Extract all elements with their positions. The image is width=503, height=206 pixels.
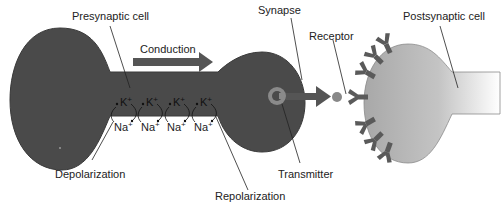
label-repolarization: Repolarization	[215, 190, 285, 202]
postsynaptic-cell	[364, 44, 500, 163]
neuron-diagram: K+ K+ K+ K+ Na+ Na+ Na+ Na+	[0, 0, 503, 206]
transmitter-molecule-icon	[332, 92, 342, 102]
label-conduction: Conduction	[140, 43, 196, 55]
label-depolarization: Depolarization	[55, 168, 125, 180]
transmitter-vesicle-icon	[268, 87, 286, 105]
label-transmitter: Transmitter	[278, 168, 334, 180]
label-synapse: Synapse	[258, 4, 301, 16]
conduction-arrow-icon	[133, 52, 213, 72]
label-presynaptic-cell: Presynaptic cell	[72, 10, 149, 22]
ion-na-1: Na+	[114, 120, 133, 133]
ion-na-2: Na+	[141, 120, 160, 133]
label-postsynaptic-cell: Postsynaptic cell	[403, 10, 485, 22]
ion-na-4: Na+	[194, 120, 213, 133]
ion-na-3: Na+	[167, 120, 186, 133]
label-receptor: Receptor	[309, 30, 354, 42]
